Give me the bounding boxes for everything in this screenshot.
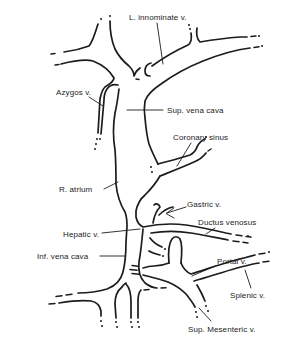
innominate-junction-curl <box>145 63 151 76</box>
gastric-vein-left-prong <box>153 204 160 223</box>
left-iliac-tube-right-line <box>115 283 126 318</box>
label-inf-vena-cava: Inf. vena cava <box>37 252 89 261</box>
sup-mesenteric-right-line <box>197 285 205 301</box>
leader-l-innominate-v <box>157 23 163 64</box>
right-jugular-left-subclavian-upper-line <box>64 24 98 52</box>
label-ductus-venosus: Ductus venosus <box>198 218 256 227</box>
left-innominate-upper-jugular-line <box>152 33 191 66</box>
label-coronary-sinus: Coronary sinus <box>173 133 228 142</box>
label-hepatic-v: Hepatic v. <box>63 230 99 239</box>
portal-left-branch-upper-line <box>143 263 169 268</box>
left-jugular-right-subclavian-line <box>197 28 247 42</box>
portal-lower-mesenteric-left-line <box>143 275 195 307</box>
label-r-atrium: R. atrium <box>59 185 93 194</box>
label-azygos-v: Azygos v. <box>56 88 91 97</box>
right-iliac-tube-right-line <box>138 290 141 318</box>
label-gastric-v: Gastric v. <box>187 200 221 209</box>
venous-system-diagram: L. innominate v. Azygos v. Sup. vena cav… <box>0 0 290 353</box>
vessel-outlines <box>49 16 269 327</box>
ivc-right-edge-flare <box>139 229 157 288</box>
label-l-innominate-v: L. innominate v. <box>129 13 186 22</box>
ductus-venosus-lower-line <box>151 232 228 241</box>
right-iliac-tube-left-line <box>126 284 131 318</box>
line-end-dots <box>95 16 269 327</box>
figure-canvas: L. innominate v. Azygos v. Sup. vena cav… <box>0 0 290 353</box>
hepatic-stub-lower <box>149 251 160 255</box>
leader-portal-v <box>192 266 215 276</box>
label-splenic-v: Splenic v. <box>230 291 265 300</box>
leader-sup-mesenteric-v <box>199 308 211 321</box>
right-jugular-right-line-to-notch <box>110 21 140 76</box>
label-sup-mesenteric-v: Sup. Mesenteric v. <box>188 325 255 334</box>
leader-hepatic-v <box>102 229 140 233</box>
label-sup-vena-cava: Sup. vena cava <box>167 106 224 115</box>
label-portal-v: Portal v. <box>217 257 247 266</box>
left-iliac-lower-line <box>59 301 101 316</box>
leader-splenic-v <box>245 270 251 288</box>
portal-loop <box>169 237 182 263</box>
hepatic-stub-upper <box>150 238 162 247</box>
